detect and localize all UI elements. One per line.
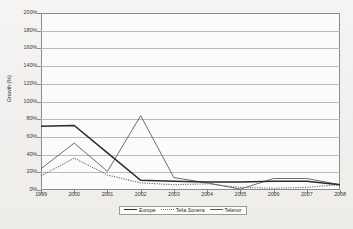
y-tick-label: 160%	[0, 45, 37, 50]
scan-artifact	[16, 8, 17, 9]
scan-artifact	[150, 221, 151, 222]
y-tick-label: 200%	[0, 10, 37, 15]
scan-artifact	[312, 215, 314, 216]
scan-artifact	[96, 218, 98, 219]
chart-legend: Europe Telia Sonera Telenor	[119, 206, 247, 215]
chart-screenshot: 200%180%160%140%120%100%80%60%40%20%0% 1…	[0, 0, 353, 229]
series-line-europe	[41, 125, 340, 184]
series-line-telenor	[41, 116, 340, 189]
y-tick-label: 40%	[0, 152, 37, 157]
legend-item-europe: Europe	[124, 208, 156, 213]
legend-label-europe: Europe	[139, 208, 156, 213]
line-chart: 200%180%160%140%120%100%80%60%40%20%0% 1…	[0, 0, 353, 229]
scan-artifact	[210, 217, 212, 218]
legend-label-telia-sonera: Telia Sonera	[176, 208, 205, 213]
scan-artifact	[340, 222, 341, 223]
y-tick-label: 60%	[0, 134, 37, 139]
legend-item-telenor: Telenor	[210, 208, 242, 213]
legend-item-telia-sonera: Telia Sonera	[161, 208, 205, 213]
legend-swatch-telenor	[210, 209, 223, 213]
scan-artifact	[62, 216, 63, 217]
series-paths	[41, 13, 340, 190]
scan-artifact	[6, 214, 8, 215]
legend-swatch-europe	[124, 209, 137, 213]
y-tick-label: 140%	[0, 63, 37, 68]
y-tick-label: 180%	[0, 28, 37, 33]
scan-artifact	[28, 219, 30, 220]
y-tick-label: 80%	[0, 116, 37, 121]
series-line-telia-sonera	[41, 158, 340, 188]
scan-artifact	[348, 120, 349, 121]
legend-label-telenor: Telenor	[225, 208, 242, 213]
scan-artifact	[268, 220, 269, 221]
x-tick-label: 2008	[320, 192, 353, 197]
y-tick-label: 20%	[0, 169, 37, 174]
legend-swatch-telia-sonera	[161, 209, 174, 213]
y-axis-title: Growth (%)	[7, 59, 12, 119]
